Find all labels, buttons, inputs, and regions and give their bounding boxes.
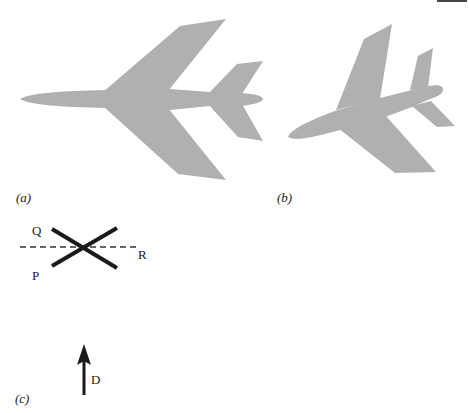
label-q: Q [32, 223, 42, 238]
aircraft-b-lower-tail [412, 101, 455, 127]
panel-c-label: (c) [15, 391, 29, 406]
label-r: R [138, 247, 147, 262]
aircraft-b [288, 24, 455, 173]
aircraft-a [20, 19, 263, 180]
panel-b-label: (b) [277, 190, 292, 205]
aircraft-a-upper-wing [103, 19, 226, 92]
aircraft-a-lower-tail [208, 104, 263, 141]
panel-a-label: (a) [16, 190, 31, 205]
figure-canvas: (a) (b) Q P R D (c) [0, 0, 469, 413]
aircraft-a-lower-wing [103, 106, 226, 180]
aircraft-a-upper-tail [208, 61, 263, 94]
direction-arrow [77, 344, 91, 395]
corner-bar [437, 0, 467, 2]
aircraft-b-lower-wing [338, 116, 436, 173]
label-d: D [91, 372, 100, 387]
aircraft-b-upper-tail [410, 48, 433, 90]
label-p: P [32, 268, 39, 283]
